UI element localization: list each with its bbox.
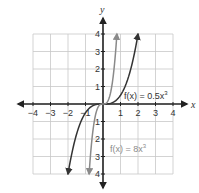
- label-8x-cubed: f(x) = 8x3: [110, 143, 147, 154]
- function-labels: f(x) = 0.5x3f(x) = 8x3: [110, 90, 168, 154]
- x-tick-label: −3: [45, 108, 55, 118]
- x-tick-label: −4: [28, 108, 38, 118]
- cubic-functions-graph: xy −4−3−2−1123443211234 f(x) = 0.5x3f(x)…: [0, 0, 199, 193]
- y-tick-label: 2: [95, 64, 100, 74]
- axes: xy: [18, 4, 196, 188]
- x-tick-label: 1: [118, 108, 123, 118]
- label-0-5x-cubed: f(x) = 0.5x3: [124, 90, 168, 101]
- x-tick-label: 2: [135, 108, 140, 118]
- x-tick-label: 3: [153, 108, 158, 118]
- x-tick-label: −2: [63, 108, 73, 118]
- y-tick-label: 4: [95, 169, 100, 179]
- y-tick-label: 3: [95, 152, 100, 162]
- y-tick-label: 3: [95, 47, 100, 57]
- y-tick-label: 1: [95, 117, 100, 127]
- x-tick-label: 4: [170, 108, 175, 118]
- y-tick-label: 1: [95, 82, 100, 92]
- x-axis-label: x: [190, 99, 196, 110]
- y-axis-label: y: [99, 4, 105, 15]
- y-tick-label: 4: [95, 29, 100, 39]
- y-tick-label: 2: [95, 134, 100, 144]
